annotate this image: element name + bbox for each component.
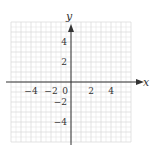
x-tick-label: 2 [88, 86, 94, 96]
y-axis-arrow-icon [68, 24, 74, 32]
y-tick-label: 2 [61, 57, 67, 67]
y-axis-label: y [65, 10, 73, 23]
x-tick-label: 0 [62, 86, 68, 96]
x-tick-label: −4 [24, 86, 38, 96]
y-tick-label: −2 [54, 97, 67, 107]
x-tick-label: 4 [108, 86, 114, 96]
y-tick-label: −4 [54, 117, 68, 127]
x-tick-label: −2 [44, 86, 57, 96]
coordinate-plane: x y −4−2024 42−2−4 [0, 0, 153, 150]
y-tick-label: 4 [61, 37, 67, 47]
x-axis-label: x [143, 76, 150, 89]
